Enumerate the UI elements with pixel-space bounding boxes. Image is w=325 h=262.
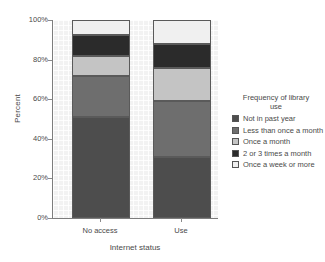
y-tick-label: 0% <box>14 214 48 222</box>
x-tick-mark <box>181 218 182 222</box>
legend-item-label: Not in past year <box>243 114 296 123</box>
legend-swatch-icon <box>232 138 239 145</box>
y-tick-label: 80% <box>14 56 48 64</box>
legend-title-line1: Frequency of library <box>243 93 309 102</box>
y-tick-label: 40% <box>14 135 48 143</box>
legend-item[interactable]: 2 or 3 times a month <box>232 149 324 158</box>
legend-item[interactable]: Not in past year <box>232 114 324 123</box>
legend: Frequency of library use Not in past yea… <box>232 93 324 172</box>
x-tick-label: No access <box>55 226 145 235</box>
y-tick-label: 100% <box>14 16 48 24</box>
x-tick-mark <box>100 218 101 222</box>
x-axis-title: Internet status <box>52 243 218 252</box>
legend-swatch-icon <box>232 150 239 157</box>
x-axis-line <box>52 218 218 219</box>
bar-segment[interactable] <box>153 44 211 68</box>
legend-item-label: 2 or 3 times a month <box>243 149 311 158</box>
bar-no-access[interactable] <box>72 20 130 218</box>
legend-swatch-icon <box>232 127 239 134</box>
stacked-bar-chart: Percent 0%20%40%60%80%100% No accessUse … <box>0 0 325 262</box>
legend-item-label: Once a week or more <box>243 160 315 169</box>
legend-item[interactable]: Once a month <box>232 137 324 146</box>
legend-item[interactable]: Less than once a month <box>232 126 324 135</box>
plot-area <box>52 20 218 218</box>
legend-title-line2: use <box>270 102 282 111</box>
y-axis-ticks: 0%20%40%60%80%100% <box>10 0 48 262</box>
bar-segment[interactable] <box>72 35 130 56</box>
legend-title: Frequency of library use <box>232 93 324 111</box>
bar-segment[interactable] <box>153 157 211 218</box>
y-tick-label: 60% <box>14 95 48 103</box>
x-tick-label: Use <box>136 226 226 235</box>
legend-swatch-icon <box>232 115 239 122</box>
bar-segment[interactable] <box>72 76 130 117</box>
legend-swatch-icon <box>232 161 239 168</box>
bar-segment[interactable] <box>72 20 130 35</box>
legend-item-label: Once a month <box>243 137 290 146</box>
legend-items: Not in past yearLess than once a monthOn… <box>232 114 324 169</box>
bar-segment[interactable] <box>72 56 130 77</box>
bar-segment[interactable] <box>153 20 211 44</box>
bar-segment[interactable] <box>153 101 211 156</box>
y-tick-label: 20% <box>14 174 48 182</box>
bar-segment[interactable] <box>72 117 130 218</box>
bar-use[interactable] <box>153 20 211 218</box>
bar-segment[interactable] <box>153 68 211 102</box>
legend-item-label: Less than once a month <box>243 126 323 135</box>
legend-item[interactable]: Once a week or more <box>232 160 324 169</box>
